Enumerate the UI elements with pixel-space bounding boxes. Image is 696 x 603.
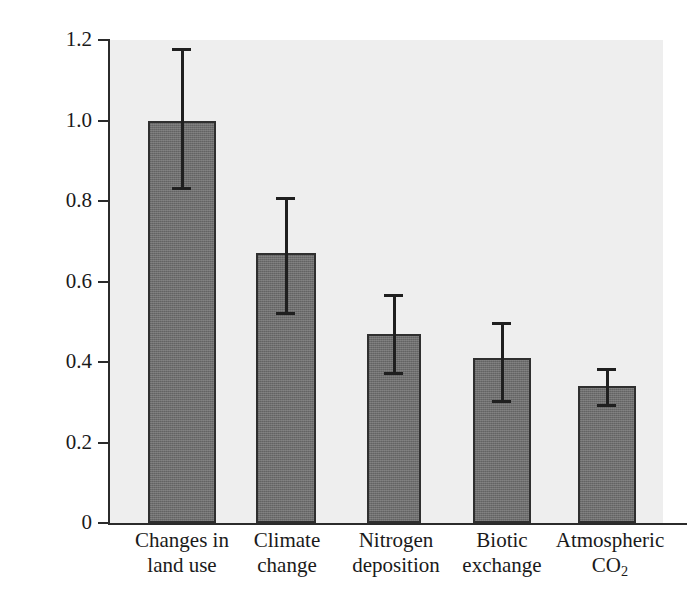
error-bar-cap-upper [276,197,295,200]
y-tick-label: 1.2 [30,29,92,50]
y-tick-label: 0.4 [30,351,92,372]
error-bar-cap-upper [597,368,616,371]
error-bar-line [393,294,396,375]
y-tick-mark [98,39,110,41]
y-tick-mark [98,200,110,202]
y-tick-label: 0.6 [30,271,92,292]
error-bar-line [181,48,184,189]
error-bar-cap-upper [492,322,511,325]
error-bar-cap-lower [492,400,511,403]
y-tick-mark [98,442,110,444]
y-tick-label: 0 [30,512,92,533]
y-tick-mark [98,522,110,524]
error-bar-cap-upper [172,48,191,51]
error-bar-cap-lower [276,312,295,315]
x-category-label-line2: CO2 [540,553,680,584]
x-category-label-line1: Climate [228,528,346,553]
error-bar-cap-lower [597,404,616,407]
x-category-label: AtmosphericCO2 [540,528,680,584]
x-axis-line [108,523,687,525]
x-category-label: Climatechange [228,528,346,578]
x-category-label-line1: Atmospheric [540,528,680,553]
error-bar-cap-upper [384,294,403,297]
error-bar-line [501,322,504,403]
y-tick-label: 0.8 [30,190,92,211]
y-tick-label: 0.2 [30,432,92,453]
x-category-label-line2: change [228,553,346,578]
y-tick-mark [98,281,110,283]
bar-chart-figure: Relative effect 1.21.00.80.60.40.20 Chan… [0,0,696,603]
y-tick-mark [98,120,110,122]
error-bar-cap-lower [172,187,191,190]
error-bar-line [285,197,288,314]
error-bar-cap-lower [384,372,403,375]
y-tick-label: 1.0 [30,110,92,131]
error-bar-line [606,368,609,406]
co2-subscript: 2 [621,563,628,579]
y-tick-mark [98,361,110,363]
